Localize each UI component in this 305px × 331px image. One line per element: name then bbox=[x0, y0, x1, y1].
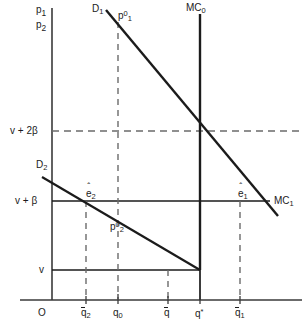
x-tick-label-q-star: q* bbox=[195, 308, 203, 319]
demand-curve-2-label: D2 bbox=[36, 160, 47, 171]
overbar-wrap: q bbox=[164, 308, 170, 318]
overbar-wrap: q bbox=[235, 308, 241, 318]
x-tick-label-q-0: q0 bbox=[113, 308, 123, 319]
marginal-cost-1-label: MC1 bbox=[274, 196, 294, 207]
economics-supply-demand-diagram: p1 p2 v + 2β v + β v O q2 q0 q q* q1 D1 … bbox=[0, 0, 305, 331]
overbar-wrap: q bbox=[81, 308, 87, 318]
hat-wrap: e bbox=[86, 189, 92, 199]
equilibrium-e2-label: e2 bbox=[86, 189, 96, 200]
y-tick-label-v-plus-2beta: v + 2β bbox=[10, 126, 38, 136]
y-axis-label: p1 p2 bbox=[36, 4, 46, 33]
demand-curve-1-label: D1 bbox=[92, 4, 103, 15]
x-tick-label-q-bar-2: q2 bbox=[81, 308, 91, 319]
demand-curve-1-line bbox=[106, 10, 278, 216]
price-p2-zero-label: p02 bbox=[110, 221, 124, 234]
hat-wrap: e bbox=[238, 189, 244, 199]
price-p1-zero-label: p01 bbox=[118, 10, 132, 23]
equilibrium-e1-label: e1 bbox=[238, 189, 248, 200]
x-tick-label-q-bar: q bbox=[164, 308, 170, 318]
y-tick-label-v: v bbox=[39, 265, 44, 275]
x-tick-label-q-bar-1: q1 bbox=[235, 308, 245, 319]
marginal-cost-0-label: MC0 bbox=[186, 3, 206, 14]
y-tick-label-v-plus-beta: v + β bbox=[15, 196, 37, 206]
origin-label: O bbox=[38, 308, 46, 318]
